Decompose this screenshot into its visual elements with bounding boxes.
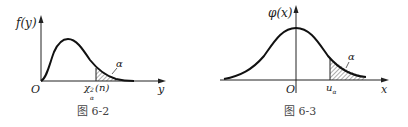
caption-figure-6-2: 图 6-2 — [77, 106, 109, 117]
quantile-label: χ2α(n) — [84, 83, 109, 93]
area-label: α — [116, 59, 123, 69]
origin-label: O — [31, 84, 40, 95]
quantile-label: uα — [326, 83, 337, 93]
x-axis-label: y — [158, 84, 164, 95]
area-label: α — [348, 52, 355, 62]
y-axis-arrow-icon — [294, 5, 299, 13]
figure-6-3 — [220, 5, 389, 93]
y-axis-label: f(y) — [16, 17, 37, 29]
normal-curve — [224, 28, 366, 79]
quantile-arg: (n) — [95, 82, 109, 93]
caption-figure-6-3: 图 6-3 — [284, 106, 316, 117]
quantile-sub: α — [90, 95, 94, 101]
y-axis-label: φ(x) — [268, 7, 293, 19]
origin-label: O — [286, 84, 295, 95]
quantile-sup: 2 — [90, 87, 94, 93]
x-axis-label: x — [381, 84, 387, 95]
quantile-sub: α — [332, 88, 336, 95]
alpha-pointer — [346, 62, 349, 68]
figures-canvas — [0, 0, 408, 127]
y-axis-arrow-icon — [39, 15, 44, 23]
figure-6-2 — [39, 15, 167, 84]
x-axis-arrow-icon — [381, 78, 389, 83]
